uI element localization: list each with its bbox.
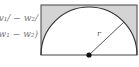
center-point bbox=[86, 52, 91, 57]
semicircle-in-rectangle-diagram: r bbox=[0, 0, 139, 67]
